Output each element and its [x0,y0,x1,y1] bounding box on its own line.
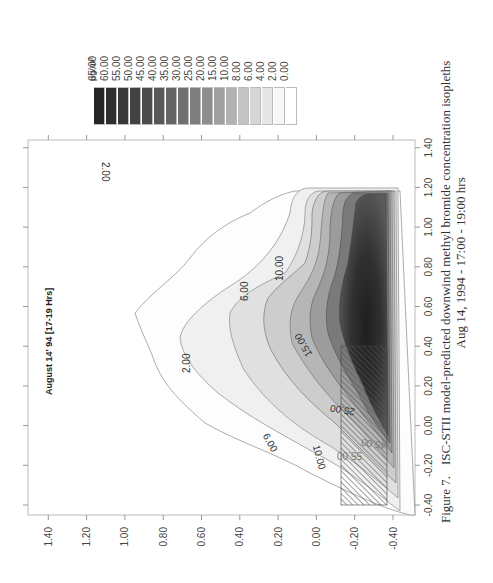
source-area [341,346,387,505]
y-tick-label: 1.20 [81,527,92,547]
legend-value: 60.00 [99,56,110,81]
legend-value: 8.00 [231,62,242,81]
x-tick-label: 0.40 [423,336,434,356]
contour-label: 2.00 [181,353,192,373]
legend-swatch [190,87,201,125]
legend-value: 0.00 [279,62,290,81]
legend-swatch [106,87,117,125]
x-tick-label: 1.40 [423,138,434,158]
caption-title: ISC-STII model-predicted downwind methyl… [438,61,453,465]
legend-value: 2.00 [267,62,278,81]
legend-swatch [250,87,261,125]
legend-value: 20.00 [195,56,206,81]
figure-caption: Figure 7.ISC-STII model-predicted downwi… [438,43,468,523]
legend-swatch [142,87,153,125]
legend-value: 55.00 [111,56,122,81]
contour-label: 6.00 [239,281,250,301]
x-tick-label: -0.20 [423,453,434,476]
y-tick-label: -0.20 [349,527,360,550]
x-tick-label: 0.20 [423,376,434,396]
y-tick-label: 0.00 [311,527,322,547]
x-tick-label: 1.20 [423,177,434,197]
contour-label: 10.00 [274,256,285,281]
y-tick-label: 1.00 [119,527,130,547]
legend-value: 45.00 [135,56,146,81]
legend-value: 40.00 [147,56,158,81]
x-tick-label: 0.60 [423,296,434,316]
legend-unit: µg/m³ [87,58,97,81]
legend-value: 15.00 [207,56,218,81]
y-tick-label: 0.20 [273,527,284,547]
y-tick-label: 0.60 [196,527,207,547]
y-tick-label: 1.40 [43,527,54,547]
legend-swatch [286,87,297,125]
legend-swatch [178,87,189,125]
legend-value: 4.00 [255,62,266,81]
legend-swatch [202,87,213,125]
legend-swatch [166,87,177,125]
legend-swatch [154,87,165,125]
y-tick-label: -0.40 [388,527,399,550]
figure-label: Figure 7. [438,465,453,523]
legend-swatch [118,87,129,125]
x-tick-label: 1.00 [423,217,434,237]
legend-swatch [238,87,249,125]
y-tick-label: 0.40 [234,527,245,547]
contour-label: 2.00 [100,162,111,182]
legend-value: 10.00 [219,56,230,81]
x-tick-label: -0.40 [423,493,434,516]
legend-value: 6.00 [243,62,254,81]
legend-value: 25.00 [183,56,194,81]
y-tick-label: 0.80 [158,527,169,547]
figure: -0.40-0.200.000.200.400.600.801.001.201.… [0,0,493,583]
x-tick-label: 0.00 [423,415,434,435]
legend-value: 50.00 [123,56,134,81]
legend-swatch [274,87,285,125]
legend-swatch [94,87,105,125]
legend-swatch [226,87,237,125]
chart-annotation: August 14' 94 [17-19 Hrs] [44,288,54,395]
legend-value: 30.00 [171,56,182,81]
caption-subtitle: Aug 14, 1994 - 17:00 - 19:00 hrs [453,177,468,348]
x-tick-label: 0.80 [423,257,434,277]
legend-swatch [214,87,225,125]
legend-swatch [130,87,141,125]
legend-value: 35.00 [159,56,170,81]
legend-swatch [262,87,273,125]
contour-label: 55.00 [337,450,362,461]
